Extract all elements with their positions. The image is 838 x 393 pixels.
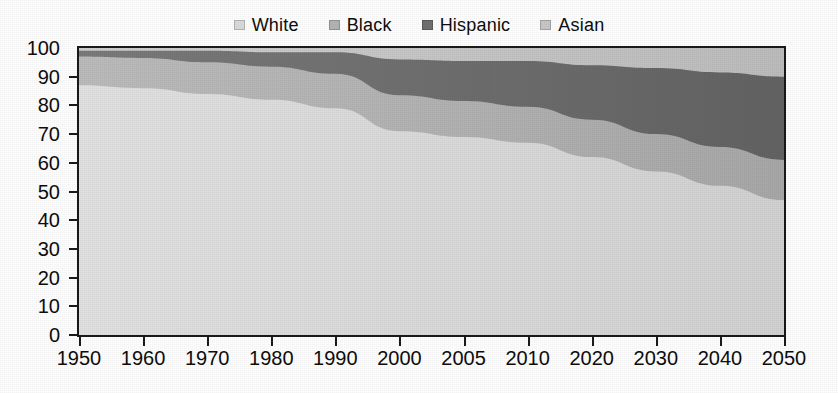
- x-tick-label-1990: 1990: [313, 348, 358, 368]
- x-tick-mark-2010: [528, 337, 530, 346]
- x-tick-mark-2020: [592, 337, 594, 346]
- legend-swatch-white-icon: [234, 20, 245, 30]
- legend-item-white[interactable]: White: [234, 16, 299, 34]
- x-tick-label-2010: 2010: [505, 348, 550, 368]
- x-tick-mark-2050: [784, 337, 786, 346]
- x-tick-mark-1970: [207, 337, 209, 346]
- y-tick-mark-30: [69, 248, 78, 250]
- y-tick-label-20: 20: [38, 268, 60, 288]
- x-tick-mark-1950: [79, 337, 81, 346]
- x-tick-label-1950: 1950: [57, 348, 102, 368]
- chart-legend: White Black Hispanic Asian: [0, 16, 838, 34]
- x-tick-label-1980: 1980: [249, 348, 294, 368]
- area-series-svg: [79, 48, 784, 335]
- legend-label-black: Black: [347, 16, 392, 34]
- stacked-area-chart: White Black Hispanic Asian: [0, 0, 838, 393]
- y-tick-mark-20: [69, 277, 78, 279]
- y-tick-mark-90: [69, 76, 78, 78]
- x-tick-mark-2005: [464, 337, 466, 346]
- x-tick-mark-2030: [656, 337, 658, 346]
- x-tick-mark-2040: [720, 337, 722, 346]
- y-tick-mark-50: [69, 191, 78, 193]
- y-tick-mark-80: [69, 104, 78, 106]
- x-tick-mark-1960: [143, 337, 145, 346]
- y-tick-mark-70: [69, 133, 78, 135]
- y-tick-mark-40: [69, 219, 78, 221]
- plot-area: [77, 46, 786, 337]
- y-tick-label-80: 80: [38, 95, 60, 115]
- y-tick-label-40: 40: [38, 210, 60, 230]
- x-tick-label-2050: 2050: [762, 348, 807, 368]
- x-axis: 1950196019701980199020002005201020202030…: [0, 348, 838, 378]
- y-tick-label-70: 70: [38, 124, 60, 144]
- legend-item-asian[interactable]: Asian: [540, 16, 604, 34]
- y-tick-mark-0: [69, 334, 78, 336]
- y-tick-label-50: 50: [38, 182, 60, 202]
- y-tick-mark-60: [69, 162, 78, 164]
- legend-swatch-hispanic-icon: [422, 20, 433, 30]
- x-tick-label-2000: 2000: [377, 348, 422, 368]
- x-tick-label-2020: 2020: [569, 348, 614, 368]
- y-tick-label-30: 30: [38, 239, 60, 259]
- x-tick-label-1960: 1960: [121, 348, 166, 368]
- legend-item-black[interactable]: Black: [329, 16, 392, 34]
- y-tick-label-60: 60: [38, 153, 60, 173]
- legend-label-asian: Asian: [558, 16, 604, 34]
- legend-item-hispanic[interactable]: Hispanic: [422, 16, 511, 34]
- y-tick-label-100: 100: [27, 38, 60, 58]
- x-tick-mark-1990: [335, 337, 337, 346]
- x-tick-label-1970: 1970: [185, 348, 230, 368]
- legend-label-hispanic: Hispanic: [440, 16, 511, 34]
- y-tick-label-0: 0: [49, 325, 60, 345]
- x-tick-label-2030: 2030: [634, 348, 679, 368]
- y-tick-label-10: 10: [38, 296, 60, 316]
- x-tick-mark-2000: [399, 337, 401, 346]
- y-axis: 1009080706050403020100: [0, 0, 70, 393]
- y-tick-mark-10: [69, 305, 78, 307]
- legend-swatch-asian-icon: [540, 20, 551, 30]
- legend-label-white: White: [252, 16, 299, 34]
- legend-swatch-black-icon: [329, 20, 340, 30]
- x-tick-mark-1980: [271, 337, 273, 346]
- y-tick-label-90: 90: [38, 67, 60, 87]
- x-tick-label-2040: 2040: [698, 348, 743, 368]
- x-tick-label-2005: 2005: [441, 348, 486, 368]
